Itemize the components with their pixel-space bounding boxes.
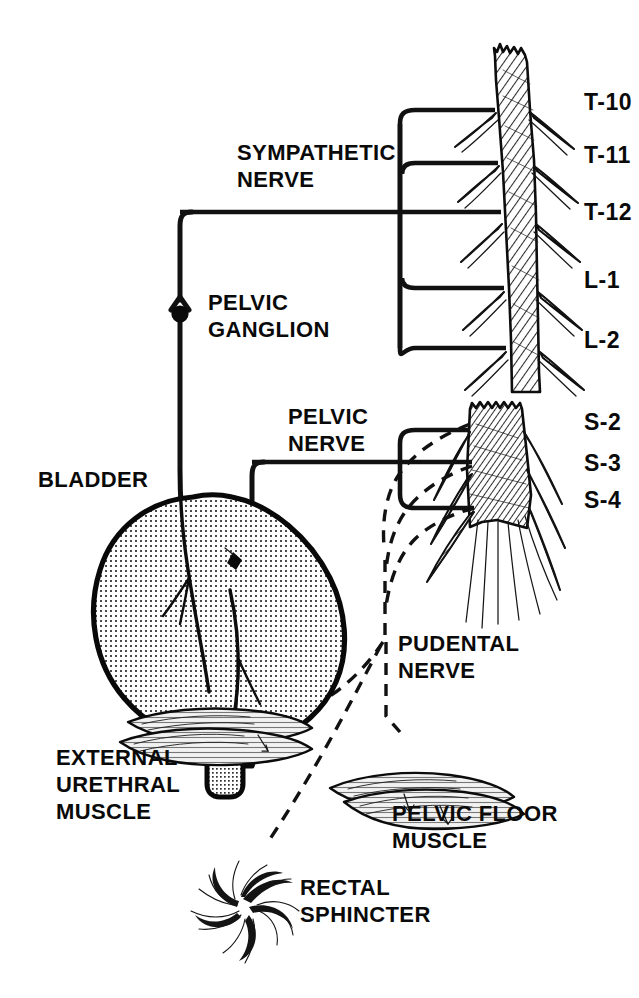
label-bladder: BLADDER xyxy=(38,467,148,492)
label-sympathetic-nerve: SYMPATHETIC NERVE xyxy=(237,140,402,192)
segment-label-s2: S-2 xyxy=(584,409,621,435)
pelvic-ganglion-marker xyxy=(171,297,189,323)
label-pelvic-nerve: PELVIC NERVE xyxy=(288,404,375,456)
rectal-sphincter-shape xyxy=(191,861,299,963)
label-pelvic-ganglion: PELVIC GANGLION xyxy=(208,290,330,342)
segment-label-l2: L-2 xyxy=(584,327,620,353)
segment-labels-sympathetic: T-10 T-11 T-12 L-1 L-2 xyxy=(584,89,632,353)
segment-label-s4: S-4 xyxy=(584,487,621,513)
segment-labels-sacral: S-2 S-3 S-4 xyxy=(584,409,621,513)
label-pudental-nerve: PUDENTAL NERVE xyxy=(398,631,525,683)
label-rectal-sphincter: RECTAL SPHINCTER xyxy=(300,875,431,927)
label-external-urethral-muscle: EXTERNAL URETHRAL MUSCLE xyxy=(56,745,186,824)
segment-label-s3: S-3 xyxy=(584,450,621,476)
segment-label-t12: T-12 xyxy=(584,199,632,225)
segment-label-t11: T-11 xyxy=(584,142,631,168)
spinal-cord-thoracolumbar xyxy=(494,44,540,392)
segment-label-t10: T-10 xyxy=(584,89,632,115)
segment-label-l1: L-1 xyxy=(584,267,620,293)
bladder-innervation-diagram: T-10 T-11 T-12 L-1 L-2 S-2 S-3 S-4 SYMPA… xyxy=(0,0,639,998)
